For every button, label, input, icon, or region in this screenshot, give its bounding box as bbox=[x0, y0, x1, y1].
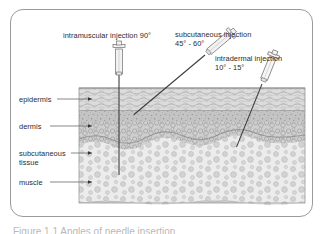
figure-caption-text: Figure 1.1 Angles of needle insertion bbox=[13, 226, 175, 234]
label-dermis-text: dermis bbox=[19, 122, 41, 131]
label-muscle-text: muscle bbox=[19, 178, 43, 187]
figure-container: intramuscular injection 90° subcutaneous… bbox=[0, 0, 328, 234]
label-subcutaneous-line2: 45° - 60° bbox=[175, 39, 204, 48]
label-dermis: dermis bbox=[19, 122, 41, 131]
label-epidermis-text: epidermis bbox=[19, 95, 52, 104]
label-intramuscular-injection: intramuscular injection 90° bbox=[63, 31, 151, 40]
label-epidermis: epidermis bbox=[19, 95, 52, 104]
label-intradermal-line1: intradermal injection bbox=[215, 54, 282, 63]
label-subcutaneous-tissue: subcutaneous tissue bbox=[19, 149, 79, 168]
label-intradermal-line2: 10° - 15° bbox=[215, 63, 244, 72]
skin-cross-section-diagram bbox=[0, 0, 328, 234]
layer-dermis bbox=[79, 110, 305, 122]
label-muscle: muscle bbox=[19, 178, 43, 187]
layer-epidermis bbox=[79, 88, 305, 110]
figure-caption-clipped: Figure 1.1 Angles of needle insertion bbox=[13, 226, 313, 234]
label-intramuscular-line1: intramuscular injection 90° bbox=[63, 31, 151, 40]
label-subcutaneous-tissue-line2: tissue bbox=[19, 158, 39, 167]
label-subcutaneous-tissue-line1: subcutaneous bbox=[19, 149, 66, 158]
label-subcutaneous-injection: subcutaneous injection 45° - 60° bbox=[175, 30, 251, 49]
skin-layers bbox=[79, 88, 305, 205]
label-intradermal-injection: intradermal injection 10° - 15° bbox=[215, 54, 282, 73]
label-subcutaneous-line1: subcutaneous injection bbox=[175, 30, 251, 39]
